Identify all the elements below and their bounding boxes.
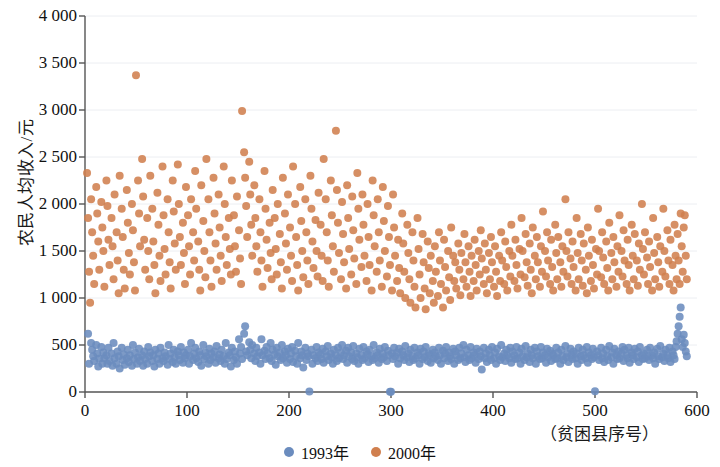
data-point	[243, 233, 251, 241]
data-point	[591, 387, 599, 395]
data-point	[347, 271, 355, 279]
data-point	[148, 205, 156, 213]
data-point	[378, 283, 386, 291]
data-point	[156, 277, 164, 285]
data-point	[337, 275, 345, 283]
data-point	[468, 252, 476, 260]
legend-item-2000[interactable]: 2000年	[371, 440, 436, 464]
data-point	[477, 226, 485, 234]
data-point	[160, 211, 168, 219]
chart-legend: 1993年2000年	[0, 440, 720, 464]
data-point	[526, 239, 534, 247]
data-point	[609, 233, 617, 241]
data-point	[512, 261, 520, 269]
data-point	[194, 238, 202, 246]
data-point	[282, 239, 290, 247]
data-point	[201, 273, 209, 281]
data-point	[174, 161, 182, 169]
data-point	[470, 277, 478, 285]
data-point	[472, 261, 480, 269]
x-tick-label: 400	[463, 401, 523, 421]
y-tick-label: 1 000	[15, 288, 77, 308]
data-point	[389, 191, 397, 199]
data-point	[121, 285, 129, 293]
data-point	[414, 214, 422, 222]
data-point	[471, 236, 479, 244]
data-point	[86, 299, 94, 307]
data-point	[192, 205, 200, 213]
y-tick-label: 2 500	[15, 147, 77, 167]
data-point	[542, 272, 550, 280]
data-point	[631, 230, 639, 238]
data-point	[522, 230, 530, 238]
data-point	[92, 183, 100, 191]
data-point	[450, 277, 458, 285]
data-point	[124, 219, 132, 227]
data-point	[411, 303, 419, 311]
data-point	[108, 214, 116, 222]
legend-marker-icon	[371, 447, 381, 457]
y-tick-label: 500	[15, 335, 77, 355]
data-point	[541, 247, 549, 255]
data-point	[666, 236, 674, 244]
data-point	[683, 275, 691, 283]
data-point	[149, 238, 157, 246]
data-point	[513, 285, 521, 293]
data-point	[278, 285, 286, 293]
data-point	[501, 238, 509, 246]
data-point	[166, 258, 174, 266]
data-point	[250, 181, 258, 189]
x-tick-label: 100	[157, 401, 217, 421]
data-point	[681, 339, 689, 347]
data-point	[85, 268, 93, 276]
data-point	[619, 272, 627, 280]
series-1993	[84, 303, 691, 395]
data-point	[376, 256, 384, 264]
data-point	[88, 228, 96, 236]
data-point	[231, 242, 239, 250]
data-point	[284, 191, 292, 199]
data-point	[213, 266, 221, 274]
data-point	[95, 266, 103, 274]
legend-label: 2000年	[388, 440, 436, 464]
x-tick-label: 300	[361, 401, 421, 421]
data-point	[457, 249, 465, 257]
data-point	[306, 172, 314, 180]
data-point	[577, 230, 585, 238]
data-point	[242, 202, 250, 210]
data-point	[374, 195, 382, 203]
data-point	[251, 214, 259, 222]
data-point	[646, 263, 654, 271]
data-point	[135, 209, 143, 217]
data-point	[130, 258, 138, 266]
data-point	[339, 230, 347, 238]
data-point	[353, 169, 361, 177]
data-point	[528, 289, 536, 297]
data-point	[241, 174, 249, 182]
data-point	[302, 228, 310, 236]
data-point	[573, 214, 581, 222]
data-point	[261, 167, 269, 175]
data-point	[365, 233, 373, 241]
data-point	[257, 335, 265, 343]
legend-item-1993[interactable]: 1993年	[284, 440, 349, 464]
data-point	[532, 275, 540, 283]
data-point	[400, 268, 408, 276]
data-point	[416, 271, 424, 279]
data-point	[358, 191, 366, 199]
data-point	[296, 183, 304, 191]
data-point	[441, 263, 449, 271]
data-point	[185, 242, 193, 250]
data-point	[195, 266, 203, 274]
data-point	[110, 275, 118, 283]
data-point	[564, 228, 572, 236]
data-point	[110, 339, 118, 347]
data-point	[165, 228, 173, 236]
data-point	[379, 183, 387, 191]
data-point	[587, 277, 595, 285]
data-point	[129, 226, 137, 234]
data-point	[343, 181, 351, 189]
data-point	[94, 238, 102, 246]
data-point	[241, 322, 249, 330]
data-point	[154, 221, 162, 229]
